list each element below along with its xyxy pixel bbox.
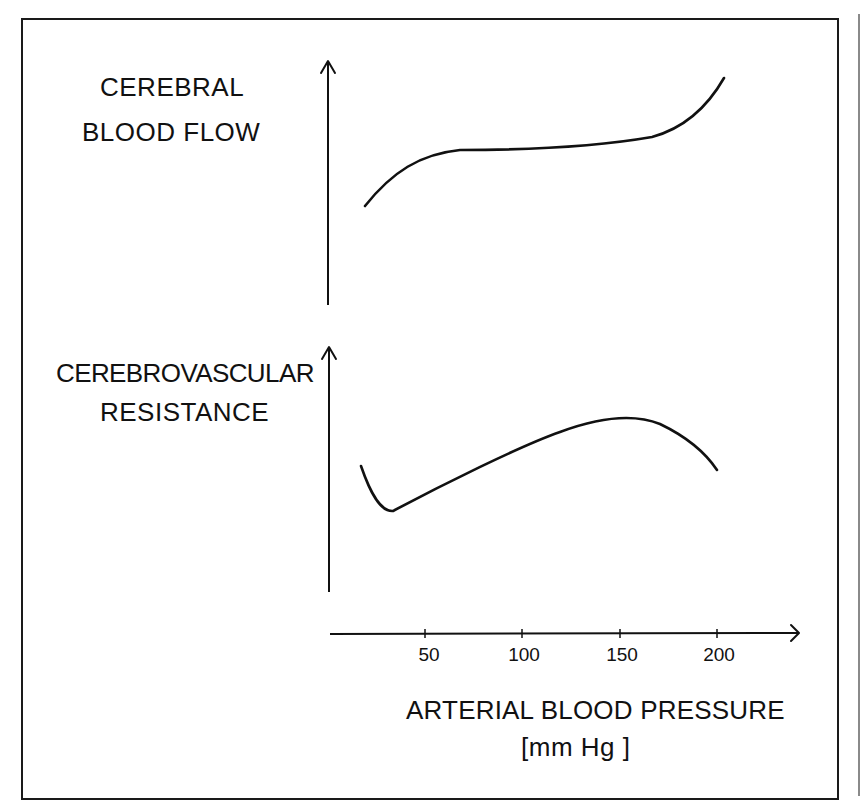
bottom-ylabel-line2: RESISTANCE bbox=[100, 399, 269, 425]
x-axis bbox=[330, 625, 799, 641]
x-tick-label-200: 200 bbox=[703, 645, 735, 664]
x-axis-title: ARTERIAL BLOOD PRESSURE bbox=[406, 697, 785, 723]
x-tick-label-50: 50 bbox=[418, 645, 439, 664]
bottom-ylabel-line1: CEREBROVASCULAR bbox=[56, 360, 314, 386]
x-tick-label-150: 150 bbox=[606, 645, 638, 664]
top-ylabel-line2: BLOOD FLOW bbox=[82, 119, 260, 145]
bottom-y-axis bbox=[322, 347, 336, 592]
x-axis-unit: [mm Hg ] bbox=[521, 734, 630, 760]
cerebrovascular-resistance-curve bbox=[361, 418, 717, 511]
cerebral-blood-flow-curve bbox=[365, 78, 724, 206]
top-y-axis bbox=[321, 61, 335, 305]
top-ylabel-line1: CEREBRAL bbox=[100, 74, 244, 100]
x-tick-label-100: 100 bbox=[508, 645, 540, 664]
